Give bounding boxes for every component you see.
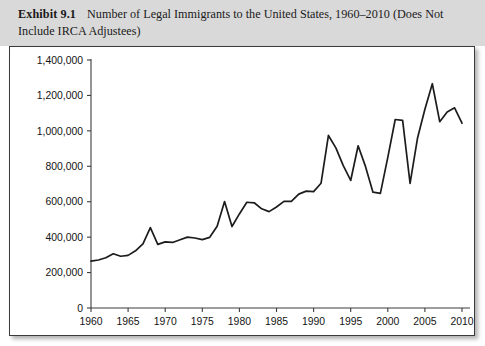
- chart-frame: 0200,000400,000600,000800,0001,000,0001,…: [9, 46, 475, 336]
- y-axis-ticks: 0200,000400,000600,000800,0001,000,0001,…: [37, 55, 91, 314]
- y-tick-label: 200,000: [45, 267, 83, 278]
- y-tick-label: 800,000: [45, 161, 83, 172]
- x-tick-label: 1970: [154, 316, 177, 327]
- exhibit-caption-band: Exhibit 9.1Number of Legal Immigrants to…: [0, 0, 485, 46]
- x-tick-label: 2005: [413, 316, 436, 327]
- exhibit-caption-text: Number of Legal Immigrants to the United…: [18, 7, 443, 38]
- y-tick-label: 1,000,000: [37, 126, 83, 137]
- x-axis-ticks: 1960196519701975198019851990199520002005…: [79, 308, 473, 327]
- exhibit-number-label: Exhibit 9.1: [18, 7, 76, 21]
- data-series-line: [91, 84, 462, 261]
- x-tick-label: 1960: [79, 316, 102, 327]
- x-tick-label: 1995: [339, 316, 362, 327]
- y-tick-label: 0: [77, 303, 83, 314]
- x-tick-label: 1990: [302, 316, 325, 327]
- exhibit-figure: Exhibit 9.1Number of Legal Immigrants to…: [0, 0, 485, 346]
- chart-plot-area: 0200,000400,000600,000800,0001,000,0001,…: [10, 47, 474, 335]
- y-tick-label: 1,200,000: [37, 90, 83, 101]
- x-tick-label: 2000: [376, 316, 399, 327]
- x-tick-label: 1965: [117, 316, 140, 327]
- line-chart: 0200,000400,000600,000800,0001,000,0001,…: [10, 47, 474, 335]
- exhibit-caption: Exhibit 9.1Number of Legal Immigrants to…: [18, 6, 470, 39]
- x-tick-label: 2010: [450, 316, 473, 327]
- x-tick-label: 1985: [265, 316, 288, 327]
- y-tick-label: 400,000: [45, 232, 83, 243]
- x-tick-label: 1975: [191, 316, 214, 327]
- x-tick-label: 1980: [228, 316, 251, 327]
- y-tick-label: 600,000: [45, 196, 83, 207]
- y-tick-label: 1,400,000: [37, 55, 83, 66]
